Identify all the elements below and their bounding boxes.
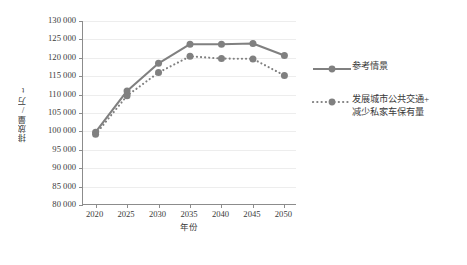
- series-layer: [83, 21, 297, 205]
- data-point-marker: [249, 55, 256, 62]
- y-tick-label: 85 000: [30, 182, 76, 191]
- y-tick-label: 120 000: [30, 53, 76, 62]
- y-tick-mark: [79, 39, 83, 40]
- y-tick-mark: [79, 58, 83, 59]
- y-tick-label: 125 000: [30, 34, 76, 43]
- data-point-marker: [155, 60, 162, 67]
- legend-label: 发展城市公共交通+ 减少私家车保有量: [352, 93, 464, 118]
- data-point-marker: [92, 131, 99, 138]
- emissions-line-chart: 排放量/万t 80 00085 00090 00095 000100 00010…: [0, 0, 467, 265]
- y-tick-mark: [79, 168, 83, 169]
- x-axis-title: 年份: [82, 222, 296, 232]
- y-tick-mark: [79, 131, 83, 132]
- legend-key-dotted-line-marker: [312, 94, 352, 106]
- y-tick-label: 110 000: [30, 90, 76, 99]
- y-tick-label: 95 000: [30, 145, 76, 154]
- data-point-marker: [187, 53, 194, 60]
- x-tick-mark: [159, 204, 160, 208]
- y-tick-label: 90 000: [30, 163, 76, 172]
- y-tick-mark: [79, 21, 83, 22]
- y-tick-label: 80 000: [30, 200, 76, 209]
- x-tick-mark: [221, 204, 222, 208]
- data-point-marker: [281, 52, 288, 59]
- y-tick-mark: [79, 187, 83, 188]
- data-point-marker: [281, 72, 288, 79]
- y-tick-mark: [79, 150, 83, 151]
- legend: 参考情景 发展城市公共交通+ 减少私家车保有量: [312, 60, 464, 138]
- plot-area: [82, 21, 296, 205]
- data-point-marker: [155, 69, 162, 76]
- data-point-marker: [249, 40, 256, 47]
- x-tick-mark: [253, 204, 254, 208]
- y-tick-label: 105 000: [30, 108, 76, 117]
- data-point-marker: [187, 41, 194, 48]
- legend-label: 参考情景: [352, 60, 464, 73]
- legend-entry: 参考情景: [312, 60, 464, 73]
- y-tick-label: 130 000: [30, 16, 76, 25]
- x-tick-mark: [127, 204, 128, 208]
- y-tick-mark: [79, 205, 83, 206]
- y-tick-mark: [79, 95, 83, 96]
- data-point-marker: [124, 92, 131, 99]
- x-axis-tick-labels: 2020202520302035204020452050: [82, 209, 296, 221]
- x-tick-mark: [284, 204, 285, 208]
- legend-entry: 发展城市公共交通+ 减少私家车保有量: [312, 93, 464, 118]
- x-tick-mark: [190, 204, 191, 208]
- data-point-marker: [218, 55, 225, 62]
- y-tick-label: 115 000: [30, 71, 76, 80]
- data-point-marker: [218, 41, 225, 48]
- y-tick-mark: [79, 113, 83, 114]
- legend-key-solid-line-marker: [312, 61, 352, 73]
- x-tick-mark: [96, 204, 97, 208]
- y-tick-mark: [79, 76, 83, 77]
- x-tick-label: 2050: [263, 209, 303, 219]
- y-axis-tick-labels: 80 00085 00090 00095 000100 000105 00011…: [30, 14, 76, 206]
- y-tick-label: 100 000: [30, 126, 76, 135]
